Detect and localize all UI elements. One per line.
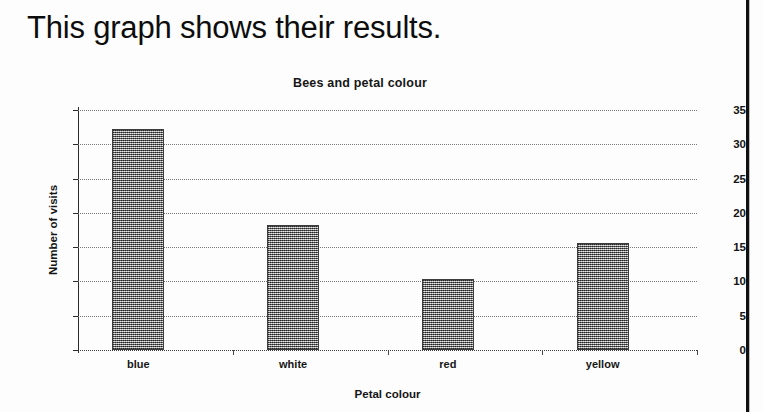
x-axis-title: Petal colour [78,388,697,400]
x-tick-label-blue: blue [127,358,150,370]
bar-yellow [577,243,629,350]
bar-blue [112,129,164,350]
bar-chart: Bees and petal colour Number of visits 0… [0,60,746,405]
gridline [78,110,697,111]
x-tick-mark [233,350,234,355]
bar-red [422,279,474,350]
gridline [78,213,697,214]
x-tick-label-red: red [439,358,456,370]
gridline [78,179,697,180]
page-heading: This graph shows their results. [27,8,441,48]
x-tick-mark [388,350,389,355]
chart-title: Bees and petal colour [0,76,720,90]
x-tick-mark [697,350,698,355]
bar-white [267,225,319,350]
gridline [78,144,697,145]
plot-area: bluewhiteredyellow [78,110,697,350]
scanned-worksheet-page: This graph shows their results. Bees and… [0,0,763,412]
y-axis-title: Number of visits [47,150,59,310]
x-tick-mark [542,350,543,355]
x-tick-label-white: white [279,358,307,370]
page-edge-border [746,0,749,412]
x-tick-label-yellow: yellow [586,358,620,370]
